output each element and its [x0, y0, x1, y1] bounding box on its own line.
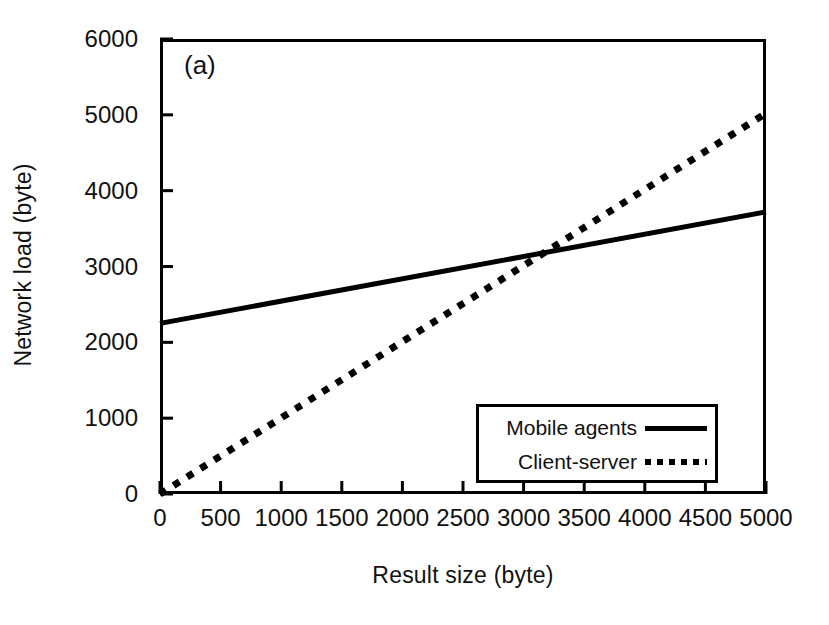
y-tick-label: 5000: [18, 103, 138, 127]
figure: Network load (byte) 01000200030004000500…: [0, 0, 829, 625]
x-axis-tick-labels: 0500100015002000250030003500400045005000: [0, 504, 829, 538]
legend-line-sample: [645, 453, 707, 471]
legend-item-label: Mobile agents: [479, 417, 645, 439]
y-tick-label: 2000: [18, 330, 138, 354]
y-tick-label: 3000: [18, 255, 138, 279]
legend-item: Client-server: [479, 445, 715, 479]
y-tick-label: 6000: [18, 27, 138, 51]
x-axis-title: Result size (byte): [160, 562, 766, 589]
y-tick-label: 4000: [18, 179, 138, 203]
legend-item-label: Client-server: [479, 451, 645, 473]
legend: Mobile agentsClient-server: [476, 404, 718, 483]
x-tick-label: 5000: [696, 504, 829, 532]
panel-label: (a): [184, 50, 216, 80]
legend-item: Mobile agents: [479, 411, 715, 445]
y-tick-label: 1000: [18, 406, 138, 430]
legend-line-sample: [645, 419, 707, 437]
y-tick-label: 0: [18, 482, 138, 506]
